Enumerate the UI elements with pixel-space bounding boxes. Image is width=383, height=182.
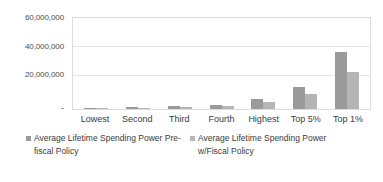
x-tick-label: Fourth (200, 113, 242, 129)
legend-swatch-square-icon (190, 136, 195, 141)
x-tick-label: Third (158, 113, 200, 129)
y-tick-label: 40,000,000 (25, 43, 64, 51)
plot-area (72, 17, 371, 110)
bar-series-2[interactable] (347, 72, 359, 109)
bar-group (242, 18, 284, 109)
bar-series-2[interactable] (305, 94, 317, 109)
chart-legend: Average Lifetime Spending Power Pre-fisc… (0, 132, 383, 182)
bar-group (159, 18, 201, 109)
x-tick-label: Highest (243, 113, 285, 129)
bar-series-1[interactable] (335, 52, 347, 109)
bar-series-2[interactable] (222, 106, 234, 109)
bar-series-2[interactable] (263, 102, 275, 109)
bar-group (326, 18, 368, 109)
bar-group (284, 18, 326, 109)
x-tick-label: Second (116, 113, 158, 129)
bar-series-1[interactable] (126, 107, 138, 109)
bar-series-1[interactable] (210, 105, 222, 109)
x-tick-label: Lowest (74, 113, 116, 129)
legend-label-line1: Average Lifetime Spending Power (198, 133, 326, 143)
x-tick-label: Top 1% (327, 113, 369, 129)
y-tick-label: 20,000,000 (25, 71, 64, 79)
bar-series-2[interactable] (96, 108, 108, 109)
legend-label-line2: w/Fiscal Policy (198, 146, 254, 156)
legend-swatch-square-icon (26, 136, 31, 141)
plot-wrapper: 60,000,000 40,000,000 20,000,000 - Lowes… (0, 0, 383, 130)
legend-label-series-1: Average Lifetime Spending Power Pre-fisc… (34, 132, 184, 158)
bar-group (75, 18, 117, 109)
bar-series-1[interactable] (84, 108, 96, 109)
bar-series-2[interactable] (180, 107, 192, 109)
bar-series-1[interactable] (251, 99, 263, 109)
y-tick-label: 60,000,000 (25, 14, 64, 22)
legend-label-line1: Average Lifetime Spending Power (34, 133, 162, 143)
bar-group (201, 18, 243, 109)
bar-chart-figure: 60,000,000 40,000,000 20,000,000 - Lowes… (0, 0, 383, 182)
legend-entry-series-1[interactable]: Average Lifetime Spending Power Pre-fisc… (26, 132, 194, 182)
bar-series-1[interactable] (293, 87, 305, 109)
legend-entry-series-2[interactable]: Average Lifetime Spending Power w/Fiscal… (190, 132, 358, 182)
y-tick-label: - (61, 104, 64, 112)
x-tick-label: Top 5% (285, 113, 327, 129)
bar-series-1[interactable] (168, 106, 180, 109)
legend-label-series-2: Average Lifetime Spending Power w/Fiscal… (198, 132, 348, 158)
x-axis: LowestSecondThirdFourthHighestTop 5%Top … (72, 113, 371, 129)
bar-group (117, 18, 159, 109)
bars-layer (73, 18, 370, 109)
y-axis: 60,000,000 40,000,000 20,000,000 - (0, 0, 68, 130)
bar-series-2[interactable] (138, 108, 150, 109)
